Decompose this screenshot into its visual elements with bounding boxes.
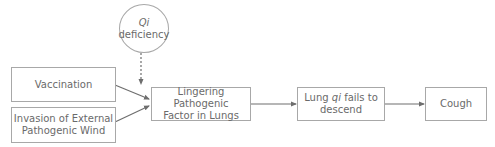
lung-qi-post: fails to bbox=[341, 92, 378, 103]
lung-qi-line2: descend bbox=[320, 104, 362, 116]
invasion-line1: Invasion of External bbox=[14, 113, 113, 125]
lung-qi-pre: Lung bbox=[304, 92, 332, 103]
node-lung-qi-fails-to-descend: Lung qi fails to descend bbox=[297, 87, 385, 121]
lung-qi-italic: qi bbox=[332, 92, 341, 103]
cough-label: Cough bbox=[440, 98, 472, 110]
vaccination-label: Vaccination bbox=[35, 79, 93, 91]
node-vaccination: Vaccination bbox=[11, 67, 116, 102]
edge-invasion-to-lingering bbox=[115, 106, 149, 122]
edge-vaccination-to-lingering bbox=[115, 85, 149, 99]
lingering-line2: Factor in Lungs bbox=[163, 110, 239, 122]
lung-qi-line1: Lung qi fails to bbox=[304, 92, 378, 104]
lingering-line1: Lingering Pathogenic bbox=[152, 86, 250, 110]
qi-deficiency-line2: deficiency bbox=[119, 29, 170, 41]
node-invasion-external-wind: Invasion of External Pathogenic Wind bbox=[11, 107, 116, 143]
qi-deficiency-line1: Qi bbox=[139, 17, 150, 29]
invasion-line2: Pathogenic Wind bbox=[22, 125, 106, 137]
node-qi-deficiency: Qi deficiency bbox=[119, 4, 169, 53]
node-lingering-pathogenic-factor: Lingering Pathogenic Factor in Lungs bbox=[151, 87, 251, 121]
node-cough: Cough bbox=[425, 87, 487, 121]
